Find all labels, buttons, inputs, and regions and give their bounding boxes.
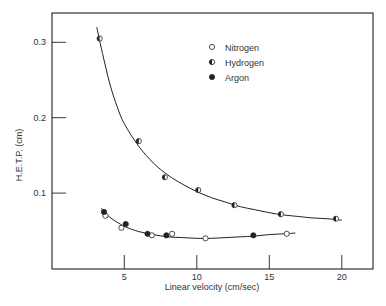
- fitted-curve: [97, 27, 342, 220]
- open-circle-marker-icon: [203, 236, 208, 241]
- filled-circle-marker-icon: [123, 221, 128, 226]
- half-filled-circle-marker-icon: [333, 216, 338, 221]
- open-circle-marker-icon: [284, 231, 289, 236]
- x-tick-label: 10: [192, 272, 202, 282]
- x-axis-label: Linear velocity (cm/sec): [165, 282, 260, 292]
- open-circle-marker-icon: [119, 225, 124, 230]
- plot-frame: [52, 13, 373, 269]
- legend-label: Argon: [225, 73, 249, 83]
- x-tick-label: 15: [264, 272, 274, 282]
- y-axis-label: H.E.T.P. (cm): [14, 129, 24, 181]
- filled-circle-marker-icon: [164, 233, 169, 238]
- legend: NitrogenHydrogenArgon: [209, 43, 264, 83]
- open-circle-marker-icon: [170, 231, 175, 236]
- legend-label: Hydrogen: [225, 58, 264, 68]
- half-filled-circle-marker-icon: [97, 36, 102, 41]
- half-filled-circle-marker-icon: [136, 138, 141, 143]
- half-filled-circle-marker-icon: [232, 203, 237, 208]
- half-filled-circle-marker-icon: [209, 59, 214, 64]
- x-tick-label: 20: [337, 272, 347, 282]
- axis-ticks: 51015200.10.20.3: [33, 37, 346, 282]
- filled-circle-marker-icon: [209, 74, 214, 79]
- y-tick-label: 0.3: [33, 37, 46, 47]
- half-filled-circle-marker-icon: [278, 212, 283, 217]
- x-tick-label: 5: [122, 272, 127, 282]
- y-tick-label: 0.1: [33, 188, 46, 198]
- legend-label: Nitrogen: [225, 43, 259, 53]
- filled-circle-marker-icon: [145, 231, 150, 236]
- open-circle-marker-icon: [209, 44, 214, 49]
- half-filled-circle-marker-icon: [162, 175, 167, 180]
- plot-border: [52, 13, 373, 269]
- fitted-curve: [101, 208, 295, 238]
- y-tick-label: 0.2: [33, 113, 46, 123]
- half-filled-circle-marker-icon: [196, 187, 201, 192]
- fitted-curves: [97, 27, 342, 238]
- hetp-chart: 51015200.10.20.3 NitrogenHydrogenArgon L…: [0, 0, 386, 306]
- filled-circle-marker-icon: [101, 209, 106, 214]
- filled-circle-marker-icon: [251, 233, 256, 238]
